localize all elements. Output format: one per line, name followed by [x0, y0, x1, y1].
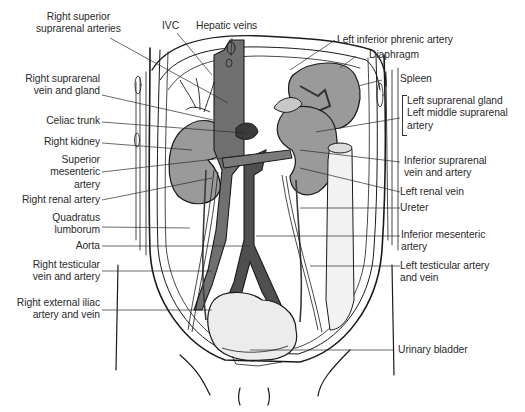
label-left-inferior-phrenic-artery: Left inferior phrenic artery	[337, 34, 453, 46]
label-line: Celiac trunk	[46, 115, 100, 127]
label-diaphragm: Diaphragm	[369, 49, 419, 61]
label-line: Left inferior phrenic artery	[337, 34, 453, 46]
label-superior-mesenteric-artery: Superior mesenteric artery	[50, 154, 100, 191]
label-left-suprarenal-gland-group: Left suprarenal gland Left middle suprar…	[407, 95, 508, 132]
label-line: Aorta	[76, 240, 100, 252]
anatomy-figure: Right superior suprarenal arteries IVC H…	[0, 0, 525, 412]
label-line: Inferior suprarenal	[404, 155, 487, 167]
descending-colon	[326, 144, 354, 330]
label-line: Left testicular artery	[400, 260, 489, 272]
label-line: artery	[50, 179, 100, 191]
label-inferior-suprarenal-vein-and-artery: Inferior suprarenal vein and artery	[404, 155, 487, 180]
label-right-kidney: Right kidney	[44, 136, 100, 148]
label-line: Left middle suprarenal	[407, 107, 508, 119]
label-line: Superior	[50, 154, 100, 166]
label-line: Diaphragm	[369, 49, 419, 61]
label-right-superior-suprarenal-arteries: Right superior suprarenal arteries	[36, 11, 121, 36]
label-ureter: Ureter	[400, 202, 428, 214]
label-ivc: IVC	[162, 20, 179, 32]
label-line: suprarenal arteries	[36, 23, 121, 35]
label-line: Inferior mesenteric	[401, 229, 485, 241]
label-line: Left suprarenal gland	[407, 95, 508, 107]
label-line: IVC	[162, 20, 179, 32]
label-aorta: Aorta	[76, 240, 100, 252]
label-line: vein and artery	[33, 271, 100, 283]
label-line: lumborum	[52, 224, 100, 236]
label-left-renal-vein: Left renal vein	[400, 186, 464, 198]
label-line: Right suprarenal	[25, 73, 100, 85]
label-right-external-iliac-artery-and-vein: Right external iliac artery and vein	[17, 297, 100, 322]
label-line: Right renal artery	[22, 194, 100, 206]
label-line: artery	[401, 241, 485, 253]
label-line: Urinary bladder	[398, 344, 468, 356]
label-line: Right superior	[36, 11, 121, 23]
label-line: mesenteric	[50, 166, 100, 178]
label-line: vein and gland	[25, 85, 100, 97]
label-line: vein and artery	[404, 167, 487, 179]
label-line: Spleen	[400, 73, 432, 85]
label-right-suprarenal-vein-and-gland: Right suprarenal vein and gland	[25, 73, 100, 98]
label-right-testicular-vein-and-artery: Right testicular vein and artery	[33, 259, 100, 284]
label-line: Hepatic veins	[196, 20, 257, 32]
label-line: Quadratus	[52, 212, 100, 224]
label-line: artery	[407, 120, 508, 132]
label-line: Ureter	[400, 202, 428, 214]
label-left-testicular-artery-and-vein: Left testicular artery and vein	[400, 260, 489, 285]
label-line: and vein	[400, 272, 489, 284]
label-line: Right testicular	[33, 259, 100, 271]
label-inferior-mesenteric-artery: Inferior mesenteric artery	[401, 229, 485, 254]
label-line: artery and vein	[17, 309, 100, 321]
label-celiac-trunk: Celiac trunk	[46, 115, 100, 127]
label-line: Right kidney	[44, 136, 100, 148]
celiac-trunk-vessels	[236, 123, 258, 139]
label-hepatic-veins: Hepatic veins	[196, 20, 257, 32]
label-quadratus-lumborum: Quadratus lumborum	[52, 212, 100, 237]
label-urinary-bladder: Urinary bladder	[398, 344, 468, 356]
label-line: Right external iliac	[17, 297, 100, 309]
label-right-renal-artery: Right renal artery	[22, 194, 100, 206]
label-line: Left renal vein	[400, 186, 464, 198]
label-spleen: Spleen	[400, 73, 432, 85]
right-suprarenal-vessels	[180, 78, 214, 112]
